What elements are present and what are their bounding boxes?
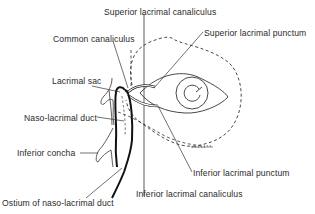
label-inferior-lacrimal-punctum: Inferior lacrimal punctum xyxy=(193,169,290,178)
label-inferior-concha: Inferior concha xyxy=(17,149,75,158)
label-superior-lacrimal-punctum: Superior lacrimal punctum xyxy=(204,29,306,38)
leader-ostium xyxy=(86,168,122,198)
inferior-concha-shape xyxy=(96,128,113,167)
label-superior-lacrimal-canaliculus: Superior lacrimal canaliculus xyxy=(104,8,216,17)
pupil-highlight xyxy=(196,87,202,92)
label-ostium-of-naso-lacrimal-duct: Ostium of naso-lacrimal duct xyxy=(2,199,114,208)
leader-superior-punctum xyxy=(154,32,203,88)
iris xyxy=(176,77,208,109)
label-common-canaliculus: Common canaliculus xyxy=(53,35,135,44)
leader-inferior-punctum xyxy=(158,106,192,172)
leader-lacrimal-sac xyxy=(92,86,120,92)
sac-inner-dashed xyxy=(122,96,125,135)
sac-fundus xyxy=(125,90,128,94)
label-lacrimal-sac: Lacrimal sac xyxy=(52,77,101,86)
label-naso-lacrimal-duct: Naso-lacrimal duct xyxy=(24,114,97,123)
leader-common-canaliculus xyxy=(113,41,128,88)
nasal-wall-line xyxy=(109,90,112,125)
pupil xyxy=(184,85,200,101)
leader-naso-lacrimal-duct xyxy=(97,117,124,121)
lacrimal-sac-duct xyxy=(112,87,132,198)
label-inferior-lacrimal-canaliculus: Inferior lacrimal canaliculus xyxy=(136,190,243,199)
